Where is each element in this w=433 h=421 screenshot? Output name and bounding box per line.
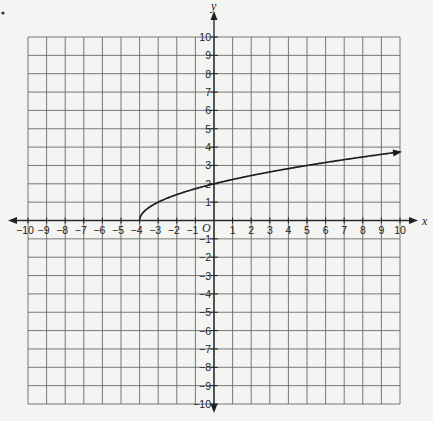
margin-dot (1, 11, 4, 14)
x-tick-label: −9 (38, 224, 50, 236)
y-tick-label: −2 (199, 251, 211, 263)
y-tick-label: −1 (199, 233, 211, 245)
x-tick-label: −6 (93, 224, 105, 236)
y-tick-label: 7 (205, 86, 211, 98)
x-tick-label: −1 (186, 224, 198, 236)
y-tick-label: 1 (205, 196, 211, 208)
y-tick-label: 2 (205, 178, 211, 190)
y-tick-label: 8 (205, 68, 211, 80)
y-tick-label: −9 (199, 380, 211, 392)
y-axis-label: y (210, 0, 217, 13)
x-tick-label: 10 (394, 224, 406, 236)
x-tick-label: −5 (112, 224, 124, 236)
y-tick-label: 4 (205, 141, 211, 153)
curve-end-arrow-icon (393, 150, 402, 157)
y-tick-label: 5 (205, 123, 211, 135)
y-tick-label: 3 (205, 159, 211, 171)
x-axis-right-arrow-icon (409, 217, 418, 224)
y-tick-label: −6 (199, 325, 211, 337)
x-tick-label: 4 (285, 224, 291, 236)
x-tick-label: 1 (230, 224, 236, 236)
y-tick-label: −10 (193, 398, 211, 410)
y-tick-label: −4 (199, 288, 211, 300)
coordinate-plane: xyO−10−9−8−7−6−5−4−3−2−11234567891010987… (0, 0, 433, 421)
x-tick-label: −7 (75, 224, 87, 236)
y-tick-label: −8 (199, 361, 211, 373)
y-tick-label: 10 (199, 31, 211, 43)
x-tick-label: 8 (360, 224, 366, 236)
coordinate-plane-figure: xyO−10−9−8−7−6−5−4−3−2−11234567891010987… (0, 0, 433, 421)
x-tick-label: −3 (149, 224, 161, 236)
y-axis-down-arrow-icon (211, 404, 218, 413)
x-tick-label: −4 (131, 224, 143, 236)
y-tick-label: −3 (199, 270, 211, 282)
x-tick-label: −2 (168, 224, 180, 236)
x-tick-label: −10 (16, 224, 34, 236)
x-tick-label: 7 (341, 224, 347, 236)
y-tick-label: 9 (205, 49, 211, 61)
x-tick-label: 5 (304, 224, 310, 236)
y-tick-label: −7 (199, 343, 211, 355)
axes (8, 11, 418, 413)
y-tick-label: −5 (199, 306, 211, 318)
y-tick-label: 6 (205, 104, 211, 116)
x-tick-label: 9 (378, 224, 384, 236)
x-tick-label: 2 (248, 224, 254, 236)
x-tick-label: 3 (267, 224, 273, 236)
x-axis-label: x (421, 214, 428, 228)
x-tick-label: 6 (323, 224, 329, 236)
x-tick-label: −8 (56, 224, 68, 236)
